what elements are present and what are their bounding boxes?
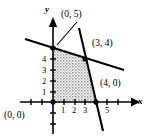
x-axis-label: x [138,97,143,106]
point-x-intercept [93,99,98,104]
graph-figure: y x (0, 5) (3, 4) (4, 0) (0, 0) 1 2 3 4 … [0,0,150,138]
y-tick-label-1: 1 [42,88,46,97]
leader-line-0-5 [57,22,77,45]
point-origin [50,99,55,104]
y-tick-label-3: 3 [42,66,46,75]
y-tick-label-4: 4 [42,55,46,64]
annotation-point-3-4: (3, 4) [92,39,113,49]
x-tick-label-3: 3 [83,106,87,115]
annotation-point-0-5: (0, 5) [61,10,82,20]
y-axis-arrowhead [49,17,57,27]
x-tick-label-2: 2 [72,106,76,115]
y-tick-label-2: 2 [42,77,46,86]
x-tick-label-5: 5 [105,106,109,115]
y-axis-label: y [45,5,49,14]
point-vertex [82,56,87,61]
annotation-point-0-0: (0, 0) [4,111,25,121]
annotation-point-4-0: (4, 0) [100,79,121,89]
x-tick-label-1: 1 [61,106,65,115]
point-y-intercept [50,45,55,50]
